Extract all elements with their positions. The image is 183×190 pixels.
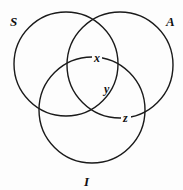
set-label-a: A <box>165 14 175 29</box>
venn-diagram: S A I x y z <box>0 0 183 190</box>
point-label-z: z <box>122 111 128 125</box>
venn-svg: S A I x y z <box>0 0 183 190</box>
set-label-i: I <box>83 174 90 189</box>
set-label-s: S <box>10 14 17 29</box>
point-label-y: y <box>102 82 110 96</box>
point-label-x: x <box>93 51 100 65</box>
